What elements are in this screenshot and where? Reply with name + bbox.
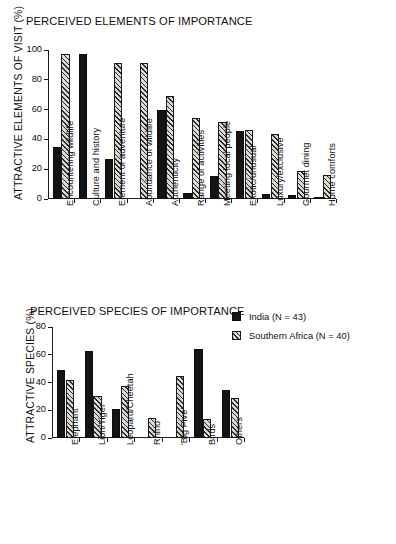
bottom-chart-y-tick-label: 40 [16,377,46,387]
top-chart-y-tick-label: 20 [12,163,42,173]
top-chart-x-category-label: Home comforts [327,143,337,206]
top-chart-x-category-label: Culture and history [91,128,101,206]
top-chart-x-category-label: Meeting local people [222,121,232,206]
top-chart-title: PERCEIVED ELEMENTS OF IMPORTANCE [26,15,253,27]
bottom-chart-y-tick-label: 20 [16,404,46,414]
legend-item-india: India (N = 43) [232,308,350,324]
legend: India (N = 43) Southern Africa (N = 40) [232,308,350,346]
top-chart-bar-india [79,54,87,199]
bottom-chart-x-tick [244,438,245,442]
top-chart-y-tick-label: 0 [12,193,42,203]
top-chart-bar-india [105,159,113,199]
bottom-chart-bar-india [85,351,93,438]
top-chart-x-category-label: Range of activities [196,130,206,206]
top-chart-x-category-label: Gourmet dining [301,142,311,206]
top-chart-bar-india [157,110,165,199]
top-chart-x-category-label: Exotic/unusual [248,146,258,206]
bottom-chart-y-tick-label: 60 [16,349,46,359]
bottom-chart-y-tick-label: 0 [16,432,46,442]
top-chart-bar-india [183,193,191,199]
legend-label-southern-africa: Southern Africa (N = 40) [249,330,350,341]
figure-root: PERCEIVED ELEMENTS OF IMPORTANCE ATTRACT… [0,0,396,544]
top-chart-y-tick-label: 60 [12,104,42,114]
bottom-chart-y-tick-label: 80 [16,321,46,331]
legend-label-india: India (N = 43) [249,311,306,322]
top-chart-x-category-label: Encountering wildlife [65,121,75,206]
bottom-chart-bar-india [222,390,230,438]
bottom-chart-x-category-label: Rhino [152,421,162,445]
top-chart-bar-india [53,147,61,199]
top-chart-x-category-label: Abundance of wildlife [144,118,154,206]
bottom-chart-x-category-label: Elephant [70,408,80,445]
bottom-chart-x-category-label: Leopard/Cheetah [125,373,135,445]
top-chart-y-tick-label: 100 [12,44,42,54]
bottom-chart-title: PERCEIVED SPECIES OF IMPORTANCE [30,305,245,317]
legend-swatch-southern-africa-icon [232,331,241,340]
bottom-chart-x-category-label: Birds [207,424,217,445]
top-chart-x-category-label: Authenticity [170,158,180,206]
top-chart-y-tick-label: 40 [12,133,42,143]
top-chart-x-category-label: Element of adventure [117,118,127,206]
top-chart-bar-india [314,197,322,199]
bottom-chart-bar-india [57,370,65,438]
bottom-chart-plot-area: 020406080 [52,327,244,438]
bottom-chart-bar-india [194,349,202,438]
bottom-chart-x-category-label: 'Big Five' [179,408,189,445]
bottom-chart-bar-india [112,409,120,438]
legend-swatch-india-icon [232,312,241,321]
bottom-chart-bar-group [189,327,216,438]
top-chart-bar-india [288,195,296,199]
top-chart-bar-india [236,131,244,199]
top-chart-x-category-label: Luxury/exclusive [275,137,285,206]
bottom-chart-x-category-label: Lion/Tiger [97,404,107,445]
top-chart-bar-india [262,194,270,199]
bottom-chart-x-tick [189,438,190,442]
top-chart-y-tick-label: 80 [12,74,42,84]
top-chart-bar-india [210,176,218,199]
bottom-chart-x-category-label: Others [234,417,244,445]
legend-item-southern-africa: Southern Africa (N = 40) [232,327,350,343]
